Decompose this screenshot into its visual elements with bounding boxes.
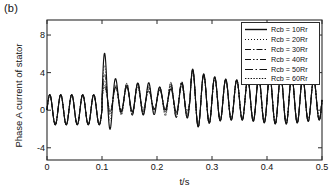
y-axis-title: Phase A current of stator [13,26,24,166]
y-tick-label: 4 [23,68,45,78]
legend-item[interactable]: Rcb = 20Rr [244,35,317,45]
legend-item[interactable]: Rcb = 60Rr [244,74,317,84]
x-axis-title: t/s [47,176,322,187]
legend-line-sample [244,74,268,83]
legend-item[interactable]: Rcb = 30Rr [244,45,317,55]
legend-label: Rcb = 50Rr [271,65,308,74]
legend-label: Rcb = 40Rr [271,55,308,64]
y-tick-label: 0 [23,105,45,115]
x-tick-label: 0 [44,162,49,172]
x-tick-label: 0.3 [206,162,219,172]
legend-label: Rcb = 60Rr [271,74,308,83]
x-tick-label: 0.1 [96,162,109,172]
legend-line-sample [244,55,268,64]
x-tick-label: 0.2 [151,162,164,172]
legend-item[interactable]: Rcb = 40Rr [244,54,317,64]
legend-label: Rcb = 30Rr [271,45,308,54]
y-tick-label: 8 [23,30,45,40]
legend: Rcb = 10RrRcb = 20RrRcb = 30RrRcb = 40Rr… [241,22,320,85]
legend-item[interactable]: Rcb = 10Rr [244,25,317,35]
legend-line-sample [244,35,268,44]
x-tick-label: 0.4 [261,162,274,172]
legend-line-sample [244,25,268,34]
x-tick-label: 0.5 [316,162,329,172]
legend-line-sample [244,65,268,74]
legend-item[interactable]: Rcb = 50Rr [244,64,317,74]
panel-label: (b) [4,2,18,14]
legend-line-sample [244,45,268,54]
legend-label: Rcb = 20Rr [271,35,308,44]
y-tick-label: -4 [23,143,45,153]
figure-panel: (b) Phase A current of stator t/s 00.10.… [0,0,333,192]
legend-label: Rcb = 10Rr [271,25,308,34]
